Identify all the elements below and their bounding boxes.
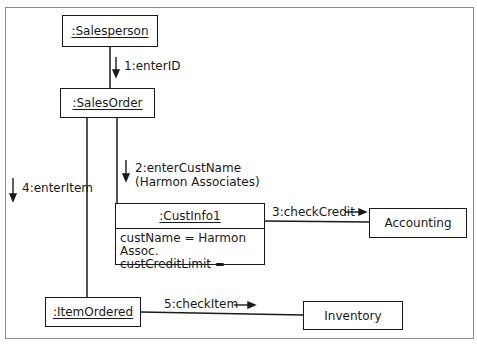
object-name: Inventory bbox=[324, 309, 381, 323]
message-2-argument: (Harmon Associates) bbox=[135, 175, 260, 189]
object-itemordered: :ItemOrdered bbox=[45, 297, 141, 327]
message-2-label: 2:enterCustName bbox=[135, 161, 241, 175]
object-attributes: custName = Harmon Assoc. custCreditLimit… bbox=[116, 229, 264, 274]
object-accounting: Accounting bbox=[369, 208, 467, 238]
object-name: :CustInfo1 bbox=[159, 209, 220, 223]
object-name: :Salesperson bbox=[71, 24, 148, 38]
object-name: :ItemOrdered bbox=[53, 305, 133, 319]
object-salesorder: :SalesOrder bbox=[60, 88, 155, 118]
object-salesperson: :Salesperson bbox=[62, 15, 158, 47]
attribute: custName = Harmon Assoc. bbox=[120, 232, 260, 258]
object-name: :SalesOrder bbox=[72, 96, 142, 110]
object-name: Accounting bbox=[384, 216, 451, 230]
object-inventory: Inventory bbox=[303, 301, 403, 330]
message-4-label: 4:enterItem bbox=[22, 181, 93, 195]
message-5-label: 5:checkItem bbox=[164, 297, 238, 311]
object-header: :CustInfo1 bbox=[116, 204, 264, 229]
object-custinfo: :CustInfo1 custName = Harmon Assoc. cust… bbox=[115, 203, 265, 265]
message-3-label: 3:checkCredit bbox=[272, 205, 355, 219]
attribute: custCreditLimit = bbox=[120, 258, 260, 271]
message-1-label: 1:enterID bbox=[124, 59, 180, 73]
